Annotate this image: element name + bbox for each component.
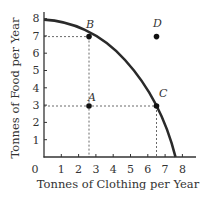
svg-text:C: C [159,87,168,100]
svg-text:3: 3 [33,99,40,112]
svg-text:7: 7 [33,30,40,43]
svg-text:8: 8 [33,12,40,25]
y-axis-title: Tonnes of Food per Year [8,17,22,159]
x-tick-labels: 0 1 2 3 4 5 6 7 8 [32,163,186,176]
svg-text:1: 1 [33,134,40,147]
guide-lines [44,37,157,157]
svg-text:5: 5 [33,64,40,77]
point-a [86,103,92,109]
ppf-chart: 0 1 2 3 4 5 6 7 8 1 2 3 4 5 6 7 8 Tonnes… [0,0,204,200]
svg-text:2: 2 [75,163,82,176]
y-tick-labels: 1 2 3 4 5 6 7 8 [33,12,40,146]
svg-text:8: 8 [179,163,186,176]
svg-text:5: 5 [127,163,134,176]
svg-text:7: 7 [162,163,169,176]
point-b [86,34,92,40]
svg-text:6: 6 [33,47,40,60]
svg-text:B: B [85,18,94,31]
svg-text:D: D [152,17,162,30]
axes [44,12,197,158]
svg-text:3: 3 [92,163,99,176]
data-points [86,34,159,109]
svg-text:0: 0 [32,163,39,176]
point-c [154,103,160,109]
ppf-curve [44,20,176,157]
svg-text:A: A [87,91,96,104]
svg-text:6: 6 [144,163,151,176]
svg-text:2: 2 [33,116,40,129]
svg-text:4: 4 [110,163,117,176]
svg-text:4: 4 [33,82,40,95]
point-d [154,34,160,40]
svg-text:1: 1 [58,163,65,176]
x-axis-title: Tonnes of Clothing per Year [37,177,200,191]
